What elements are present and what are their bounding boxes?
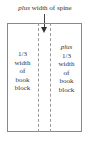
- left-line-5: block: [7, 84, 38, 93]
- spine-left-fold-line: [38, 23, 39, 132]
- right-line-4: book: [51, 77, 82, 86]
- left-line-1: 1/3: [7, 50, 38, 59]
- right-plus-emphasis: plus: [61, 43, 73, 51]
- plus-emphasis: plus: [18, 4, 30, 12]
- right-line-1: 1/3: [51, 52, 82, 61]
- left-line-2: width: [7, 59, 38, 68]
- right-line-2: width: [51, 60, 82, 69]
- right-column-label: plus 1/3 width of book block: [51, 43, 82, 94]
- right-line-3: of: [51, 69, 82, 78]
- left-column-label: 1/3 width of book block: [7, 50, 38, 93]
- left-line-3: of: [7, 67, 38, 76]
- left-line-4: book: [7, 76, 38, 85]
- right-line-5: block: [51, 86, 82, 95]
- spine-label-text: width of spine: [30, 4, 72, 12]
- spine-width-label: plus width of spine: [0, 4, 90, 12]
